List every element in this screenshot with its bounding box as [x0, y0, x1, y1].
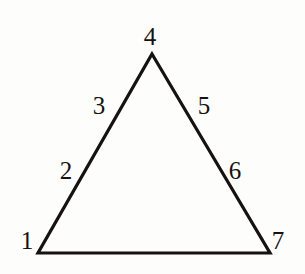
label-edge-right-lower: 6 — [222, 158, 248, 183]
label-vertex-apex: 4 — [137, 24, 163, 49]
label-edge-left-upper: 3 — [86, 93, 112, 118]
triangle-path — [38, 54, 270, 253]
label-edge-right-upper: 5 — [191, 93, 217, 118]
label-vertex-bottom-right: 7 — [265, 228, 291, 253]
triangle-figure: 4 3 5 2 6 1 7 — [0, 0, 305, 274]
label-edge-left-lower: 2 — [53, 158, 79, 183]
label-vertex-bottom-left: 1 — [14, 228, 40, 253]
